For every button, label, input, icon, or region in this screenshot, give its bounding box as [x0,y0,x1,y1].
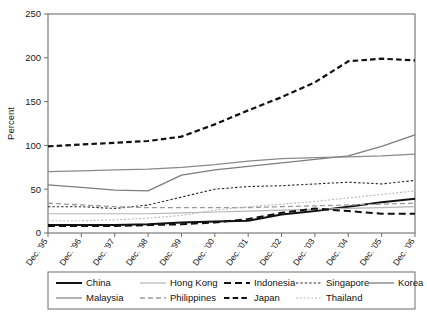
legend-label-hong-kong: Hong Kong [170,277,218,288]
y-tick-label: 50 [30,184,41,195]
legend-label-philippines: Philippines [170,292,216,303]
y-tick-label: 100 [25,140,41,151]
x-tick-label: Dec. '04 [324,236,350,267]
x-tick-label: Dec. '01 [224,236,250,267]
y-tick-label: 250 [25,8,41,19]
legend-label-indonesia: Indonesia [254,277,296,288]
x-tick-label: Dec. '05 [357,236,383,267]
x-tick-label: Dec. '97 [90,236,116,267]
x-tick-label: Dec. '02 [257,236,283,267]
x-tick-label: Dec. '98 [124,236,150,267]
legend-label-malaysia: Malaysia [86,292,124,303]
x-tick-label: Dec. '95 [24,236,50,267]
legend-label-singapore: Singapore [326,277,369,288]
line-chart: 050100150200250PercentDec. '95Dec. '96De… [0,0,427,317]
legend-label-japan: Japan [254,292,280,303]
legend-label-korea: Korea [398,277,424,288]
y-tick-label: 150 [25,96,41,107]
x-tick-label: Dec. '06 [391,236,417,267]
x-tick-label: Dec. '99 [157,236,183,267]
x-tick-label: Dec. '03 [291,236,317,267]
x-tick-label: Dec. '96 [57,236,83,267]
legend-label-china: China [86,277,112,288]
plot-area-frame [48,14,415,233]
legend-label-thailand: Thailand [326,292,362,303]
chart-container: 050100150200250PercentDec. '95Dec. '96De… [0,0,427,317]
y-axis-label: Percent [5,107,16,140]
y-tick-label: 200 [25,52,41,63]
x-tick-label: Dec. '00 [191,236,217,267]
